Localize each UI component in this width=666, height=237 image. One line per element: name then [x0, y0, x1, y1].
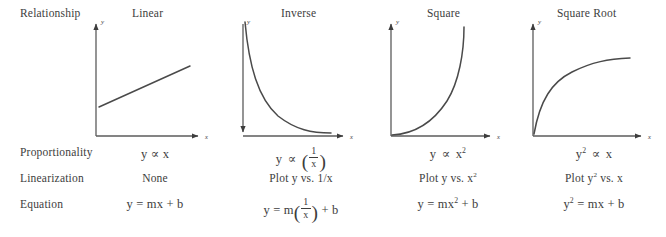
- inverse-eq-paren-open: (: [294, 205, 301, 221]
- square-eq-prefix: y = mx: [417, 197, 454, 211]
- inverse-eq-numerator: 1: [301, 197, 310, 207]
- square-root-x-axis-label: x: [647, 133, 651, 140]
- inverse-eq-denominator: x: [301, 210, 310, 220]
- cell-square-root-proportionality: y2 ∝ x: [534, 146, 654, 162]
- cell-square-linearization: Plot y vs. x2: [392, 172, 504, 184]
- plot-square: y x: [391, 18, 500, 140]
- square-x-axis-label: x: [496, 133, 500, 140]
- square-prop-exponent: 2: [462, 146, 466, 155]
- inverse-eq-suffix: + b: [322, 203, 339, 217]
- inverse-prop-fraction: 1x: [309, 146, 318, 169]
- inverse-prop-lhs: y: [276, 152, 282, 166]
- inverse-x-axis-label: x: [349, 133, 353, 140]
- square-root-y-axis-label: y: [537, 18, 542, 26]
- cell-inverse-proportionality: y ∝ (1x): [245, 146, 357, 170]
- square-lin-prefix: Plot y vs. x: [419, 172, 473, 184]
- sqrt-lin-exponent: 2: [593, 171, 597, 179]
- sqrt-prop-suffix: x: [606, 147, 612, 161]
- inverse-prop-denominator: x: [309, 159, 318, 169]
- square-root-curve: [534, 58, 630, 134]
- inverse-prop-paren-close: ): [319, 154, 326, 170]
- inverse-eq-prefix: y = m: [263, 203, 293, 217]
- square-prop-lhs: y: [430, 147, 436, 161]
- linear-curve: [99, 66, 190, 107]
- sqrt-lin-prefix: Plot y: [565, 172, 593, 184]
- row-label-linearization: Linearization: [20, 172, 84, 184]
- plot-inverse: y x: [243, 18, 353, 140]
- cell-linear-equation: y = mx + b: [100, 197, 210, 212]
- inverse-curve: [245, 22, 331, 133]
- cell-square-root-equation: y2 = mx + b: [534, 197, 654, 212]
- inverse-y-axis-label: y: [246, 18, 251, 26]
- cell-inverse-linearization: Plot y vs. 1/x: [245, 172, 357, 184]
- linear-x-axis-label: x: [204, 133, 208, 140]
- cell-square-proportionality: y ∝ x2: [392, 146, 504, 162]
- inverse-prop-symbol: ∝: [286, 152, 299, 166]
- cell-square-root-linearization: Plot y2 vs. x: [534, 172, 654, 184]
- row-label-proportionality: Proportionality: [20, 146, 93, 158]
- relationship-reference-figure: Relationship Linear Inverse Square Squar…: [0, 0, 666, 237]
- linear-y-axis-label: y: [100, 18, 105, 26]
- inverse-eq-fraction: 1x: [301, 197, 310, 220]
- square-eq-exponent: 2: [454, 196, 458, 205]
- plot-square-root: y x: [533, 18, 651, 140]
- sqrt-eq-suffix: = mx + b: [577, 197, 624, 211]
- cell-linear-proportionality: y ∝ x: [100, 146, 210, 162]
- sqrt-prop-exponent: 2: [582, 146, 586, 155]
- square-lin-exponent: 2: [473, 171, 477, 179]
- plot-linear: y x: [96, 18, 208, 140]
- cell-linear-linearization: None: [100, 172, 210, 184]
- sqrt-lin-suffix: vs. x: [600, 172, 623, 184]
- plot-panels: y x y x y x y x: [0, 0, 666, 145]
- sqrt-prop-symbol: ∝: [590, 147, 603, 161]
- cell-inverse-equation: y = m(1x) + b: [245, 197, 357, 221]
- square-curve: [392, 27, 464, 135]
- square-y-axis-label: y: [395, 18, 400, 26]
- inverse-eq-paren-close: ): [312, 205, 319, 221]
- inverse-prop-paren-open: (: [302, 154, 309, 170]
- row-label-equation: Equation: [20, 198, 63, 210]
- square-eq-suffix: + b: [462, 197, 479, 211]
- cell-square-equation: y = mx2 + b: [392, 197, 504, 212]
- square-prop-symbol: ∝: [440, 147, 453, 161]
- inverse-prop-numerator: 1: [309, 146, 318, 156]
- sqrt-eq-exponent: 2: [570, 196, 574, 205]
